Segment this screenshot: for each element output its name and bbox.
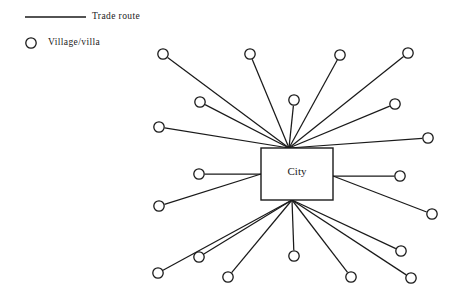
- trade-route-edge: [292, 200, 396, 249]
- village-node[interactable]: Village/villa: [153, 268, 163, 278]
- village-node[interactable]: Village/villa: [396, 246, 406, 256]
- village-node[interactable]: Village/villa: [346, 272, 356, 282]
- village-node[interactable]: Village/villa: [395, 171, 405, 181]
- village-node[interactable]: Village/villa: [194, 169, 204, 179]
- village-legend-icon: [26, 38, 36, 48]
- village-node[interactable]: Village/villa: [289, 95, 299, 105]
- village-node[interactable]: Village/villa: [154, 201, 164, 211]
- village-node[interactable]: Village/villa: [158, 49, 168, 59]
- trade-route-edge: [289, 57, 404, 148]
- village-node[interactable]: Village/villa: [427, 209, 437, 219]
- trade-route-edge: [333, 176, 427, 212]
- trade-route-edge: [292, 200, 348, 272]
- legend-trade-route-label: Trade route: [92, 11, 140, 21]
- village-node[interactable]: Village/villa: [223, 272, 233, 282]
- trade-route-diagram: Village/villaVillage/villaVillage/villaV…: [0, 0, 456, 295]
- village-node[interactable]: Village/villa: [406, 273, 416, 283]
- village-node[interactable]: Village/villa: [195, 97, 205, 107]
- village-node[interactable]: Village/villa: [154, 122, 164, 132]
- city-label: City: [261, 165, 333, 177]
- village-node[interactable]: Village/villa: [390, 99, 400, 109]
- village-node[interactable]: Village/villa: [245, 49, 255, 59]
- trade-route-edge: [232, 200, 292, 273]
- trade-route-edge: [164, 174, 261, 204]
- village-node[interactable]: Village/villa: [335, 50, 345, 60]
- village-node[interactable]: Village/villa: [423, 133, 433, 143]
- village-node[interactable]: Village/villa: [403, 48, 413, 58]
- trade-route-edge: [292, 200, 406, 275]
- village-node[interactable]: Village/villa: [289, 251, 299, 261]
- village-node[interactable]: Village/villa: [194, 252, 204, 262]
- trade-route-edge: [163, 200, 292, 270]
- legend-village-label: Village/villa: [48, 37, 100, 47]
- trade-route-edge: [292, 200, 294, 250]
- trade-route-edge: [204, 200, 292, 254]
